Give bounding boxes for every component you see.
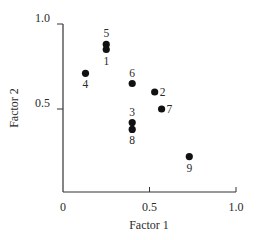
data-point-8: 8 bbox=[129, 126, 136, 147]
axis-ticks: 00.51.00.51.0 bbox=[35, 11, 244, 214]
data-points: 123456789 bbox=[82, 27, 193, 173]
data-point-1: 1 bbox=[103, 46, 110, 67]
x-tick-label: 1.0 bbox=[229, 200, 244, 214]
scatter-chart: 00.51.00.51.0 Factor 1 Factor 2 12345678… bbox=[0, 0, 256, 240]
point-label: 2 bbox=[160, 86, 166, 98]
y-axis-label: Factor 2 bbox=[7, 88, 21, 128]
point-marker bbox=[129, 80, 136, 87]
x-axis-label: Factor 1 bbox=[129, 218, 169, 232]
y-tick-label: 0.5 bbox=[35, 96, 50, 110]
point-marker bbox=[186, 153, 193, 160]
point-label: 1 bbox=[103, 55, 109, 67]
x-tick-label: 0 bbox=[60, 200, 66, 214]
point-label: 3 bbox=[129, 106, 135, 118]
point-label: 4 bbox=[83, 78, 89, 90]
data-point-7: 7 bbox=[158, 103, 173, 115]
point-label: 9 bbox=[186, 162, 192, 174]
point-marker bbox=[129, 126, 136, 133]
point-marker bbox=[158, 105, 165, 112]
point-marker bbox=[103, 41, 110, 48]
data-point-4: 4 bbox=[82, 70, 89, 91]
data-point-2: 2 bbox=[151, 86, 166, 98]
data-point-9: 9 bbox=[186, 153, 193, 174]
x-tick-label: 0.5 bbox=[142, 200, 157, 214]
data-point-3: 3 bbox=[129, 106, 136, 127]
y-tick-label: 1.0 bbox=[35, 11, 50, 25]
point-marker bbox=[82, 70, 89, 77]
data-point-6: 6 bbox=[129, 67, 136, 88]
point-label: 6 bbox=[129, 67, 135, 79]
data-point-5: 5 bbox=[103, 27, 110, 48]
point-marker bbox=[129, 119, 136, 126]
point-marker bbox=[151, 88, 158, 95]
point-label: 5 bbox=[103, 27, 109, 39]
point-label: 7 bbox=[167, 103, 173, 115]
point-label: 8 bbox=[129, 134, 135, 146]
